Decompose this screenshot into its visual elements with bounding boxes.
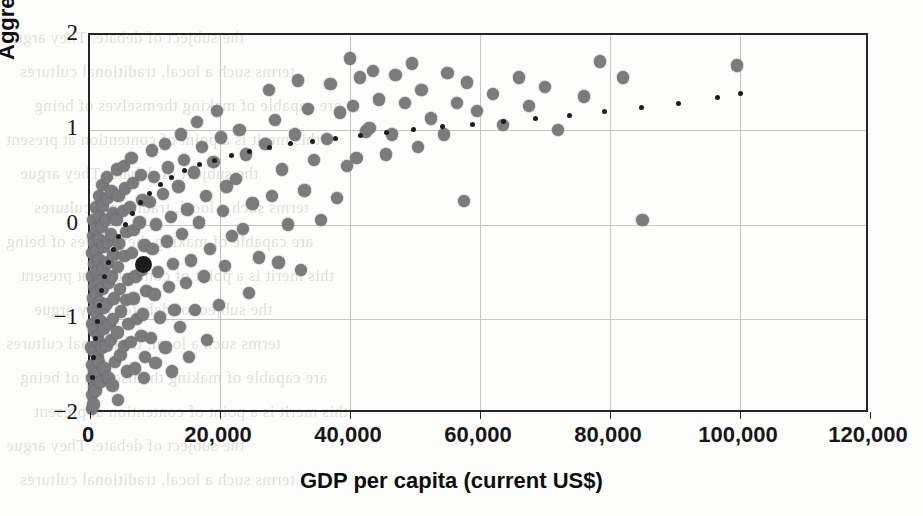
data-point: [146, 243, 158, 255]
data-point: [253, 251, 265, 263]
data-point: [189, 304, 201, 316]
data-point: [458, 195, 470, 207]
data-point: [237, 223, 249, 235]
x-tick-mark: [350, 412, 351, 419]
data-point: [166, 365, 178, 377]
data-point: [201, 334, 213, 346]
x-tick-mark: [480, 412, 481, 419]
data-point: [636, 214, 648, 226]
data-point: [243, 287, 255, 299]
data-point: [196, 141, 208, 153]
highlighted-data-point: [135, 256, 152, 273]
trend-line-dot: [169, 175, 174, 180]
data-point: [513, 71, 525, 83]
data-point: [175, 128, 187, 140]
data-point: [315, 214, 327, 226]
trend-line-dot: [147, 191, 152, 196]
data-point: [292, 74, 304, 86]
trend-line-dot: [501, 119, 506, 124]
data-point: [363, 122, 375, 134]
data-point: [406, 57, 418, 69]
data-point: [438, 128, 450, 140]
data-point: [145, 332, 157, 344]
data-point: [193, 216, 205, 228]
data-point: [200, 190, 212, 202]
data-point: [168, 304, 180, 316]
data-point: [731, 59, 743, 71]
data-point: [111, 326, 123, 338]
trend-line-dot: [182, 168, 187, 173]
data-point: [180, 277, 192, 289]
data-point: [217, 205, 229, 217]
data-point: [272, 256, 284, 268]
data-point: [159, 138, 171, 150]
data-point: [302, 103, 314, 115]
data-point: [594, 55, 606, 67]
y-tick-label: −1: [44, 305, 78, 328]
data-point: [150, 218, 162, 230]
data-point: [380, 148, 392, 160]
x-tick-mark: [870, 412, 871, 419]
bleed-through-line: terms such a local, traditional cultures: [20, 470, 295, 490]
data-point: [266, 190, 278, 202]
data-point: [487, 88, 499, 100]
data-point: [148, 171, 160, 183]
data-point: [344, 52, 356, 64]
x-tick-label: 120,000: [798, 424, 923, 446]
data-point: [213, 299, 225, 311]
x-tick-label: 0: [18, 424, 158, 446]
data-point: [215, 131, 227, 143]
trend-line-dot: [111, 247, 116, 252]
data-point: [188, 166, 200, 178]
data-point: [146, 144, 158, 156]
data-point: [347, 100, 359, 112]
x-tick-mark: [220, 412, 221, 419]
trend-line-dot: [158, 182, 163, 187]
data-point: [226, 230, 238, 242]
data-point: [367, 65, 379, 77]
trend-line-dot: [639, 105, 644, 110]
data-point: [415, 84, 427, 96]
data-point: [127, 292, 139, 304]
data-point: [276, 163, 288, 175]
data-point: [176, 228, 188, 240]
data-point: [539, 81, 551, 93]
trend-line-dot: [411, 127, 416, 132]
trend-line-dot: [738, 91, 743, 96]
data-point: [135, 169, 147, 181]
data-point: [204, 243, 216, 255]
trend-line-dot: [123, 222, 128, 227]
x-axis-title: GDP per capita (current US$): [300, 468, 603, 494]
data-point: [617, 71, 629, 83]
data-point: [138, 372, 150, 384]
trend-line-dot: [130, 211, 135, 216]
data-point: [165, 211, 177, 223]
data-point: [523, 100, 535, 112]
data-point: [373, 93, 385, 105]
trend-line-dot: [602, 109, 607, 114]
data-point: [106, 379, 118, 391]
gridline-vertical: [610, 35, 611, 410]
data-point: [185, 254, 197, 266]
data-point: [451, 97, 463, 109]
data-point: [149, 357, 161, 369]
gridline-horizontal: [90, 130, 866, 131]
data-point: [246, 197, 258, 209]
data-point: [152, 266, 164, 278]
data-point: [230, 173, 242, 185]
data-point: [115, 305, 127, 317]
data-point: [321, 133, 333, 145]
trend-line-dot: [197, 162, 202, 167]
trend-line-dot: [676, 101, 681, 106]
trend-line-dot: [567, 113, 572, 118]
trend-line-dot: [310, 139, 315, 144]
data-point: [172, 180, 184, 192]
data-point: [298, 184, 310, 196]
data-point: [162, 161, 174, 173]
gridline-vertical: [480, 35, 481, 410]
data-point: [178, 154, 190, 166]
gridline-vertical: [350, 35, 351, 410]
data-point: [159, 341, 171, 353]
data-point: [191, 116, 203, 128]
data-point: [219, 260, 231, 272]
